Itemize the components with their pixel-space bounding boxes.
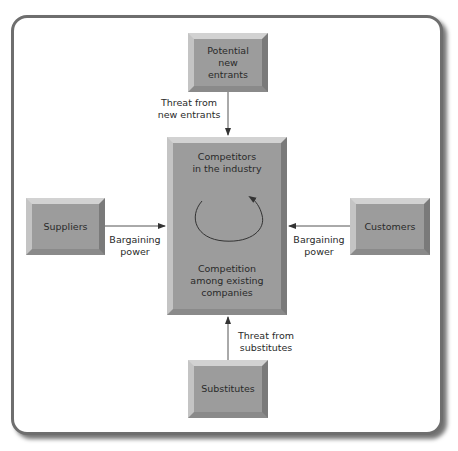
- central-top-label: Competitors in the industry: [192, 151, 261, 175]
- node-substitutes: Substitutes: [188, 360, 268, 418]
- central-bottom-label: Competition among existing companies: [190, 263, 263, 299]
- node-suppliers: Suppliers: [26, 198, 105, 255]
- edge-label-customers: Bargaining power: [290, 234, 348, 258]
- edge-label-substitutes: Threat from substitutes: [234, 330, 298, 354]
- node-suppliers-label: Suppliers: [43, 221, 87, 233]
- node-customers-label: Customers: [364, 221, 415, 233]
- circular-arrow-icon: [182, 189, 272, 249]
- node-customers: Customers: [350, 198, 430, 255]
- edge-label-suppliers: Bargaining power: [106, 234, 164, 258]
- edge-label-new-entrants: Threat from new entrants: [152, 97, 226, 121]
- node-new-entrants-label: Potential new entrants: [207, 45, 249, 81]
- node-central-competitors: Competitors in the industry Competition …: [167, 137, 287, 315]
- node-new-entrants: Potential new entrants: [188, 33, 268, 92]
- node-substitutes-label: Substitutes: [201, 383, 255, 395]
